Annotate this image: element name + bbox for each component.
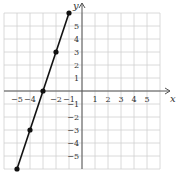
y-tick-label: −1: [67, 100, 79, 109]
x-tick-label: −4: [24, 95, 36, 104]
x-tick-label: 4: [131, 95, 136, 104]
y-tick-label: −2: [67, 113, 79, 122]
x-tick-label: −5: [11, 95, 23, 104]
y-tick-label: −4: [67, 139, 79, 148]
x-tick-label: 2: [105, 95, 110, 104]
y-tick-label: 4: [74, 35, 79, 44]
y-tick-label: −5: [67, 152, 79, 161]
data-point: [53, 49, 58, 54]
y-tick-label: 3: [74, 48, 79, 57]
data-point: [27, 127, 32, 132]
y-tick-label: 5: [74, 22, 79, 31]
x-axis-label: x: [170, 93, 176, 104]
x-tick-label: −2: [50, 95, 62, 104]
x-tick-label: 1: [92, 95, 97, 104]
y-tick-label: 2: [74, 61, 79, 70]
x-tick-label: 5: [144, 95, 149, 104]
data-point: [40, 88, 45, 93]
x-tick-label: 3: [118, 95, 123, 104]
coordinate-plane: xy−5−4−2−11234554321−1−2−3−4−5: [0, 0, 178, 177]
y-tick-label: 1: [74, 74, 79, 83]
data-point: [14, 166, 19, 171]
y-axis-label: y: [72, 0, 79, 11]
y-tick-label: −3: [67, 126, 79, 135]
data-point: [66, 10, 71, 15]
